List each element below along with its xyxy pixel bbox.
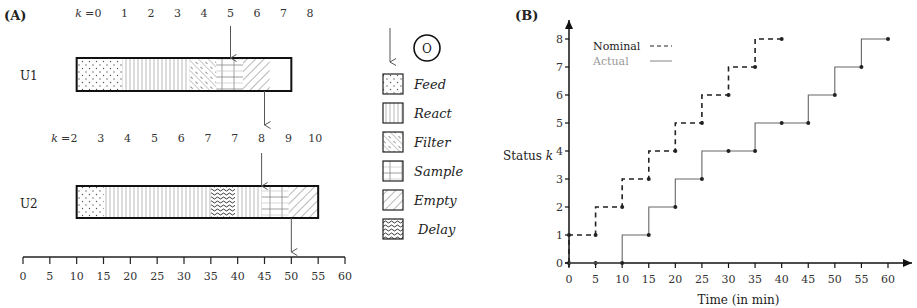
legend-item-feed: Feed [383, 74, 446, 94]
time-tick-label: 40 [231, 270, 245, 283]
time-tick-label: 20 [123, 270, 137, 283]
unit-name: U1 [20, 69, 38, 83]
data-point [727, 93, 731, 97]
x-tick-label: 40 [775, 273, 789, 286]
time-tick-label: 5 [46, 270, 53, 283]
legend-circle-label: O [422, 42, 432, 56]
segment-feed [77, 58, 123, 91]
legend-swatch [383, 190, 403, 210]
x-tick-label: 20 [668, 273, 682, 286]
x-tick-label: 55 [854, 273, 868, 286]
time-tick-label: 45 [258, 270, 272, 283]
x-tick-label: 25 [695, 273, 709, 286]
segment-react [235, 186, 262, 218]
y-tick-label: 0 [556, 257, 563, 270]
data-point [753, 149, 757, 153]
data-point [753, 65, 757, 69]
legend-swatch [383, 74, 403, 94]
time-tick-label: 25 [150, 270, 164, 283]
data-point [700, 121, 704, 125]
time-tick-label: 10 [70, 270, 84, 283]
k-label: 3 [174, 7, 181, 20]
data-point [620, 205, 624, 209]
unit-u2: k=23456778910U2 [20, 132, 322, 252]
k-label: 6 [254, 7, 261, 20]
x-tick-label: 0 [566, 273, 573, 286]
x-axis-label: Time (in min) [698, 293, 780, 307]
legend-label-nominal: Nominal [593, 40, 641, 53]
time-tick-label: 0 [20, 270, 27, 283]
k-label: 5 [227, 7, 234, 20]
k-label: 0 [95, 7, 102, 20]
panel-a-label: (A) [4, 8, 26, 23]
data-point [673, 149, 677, 153]
legend-item-delay: Delay [383, 219, 456, 239]
unit-u1: k=012345678U1 [20, 7, 314, 125]
k-label: 7 [280, 7, 287, 20]
legend-label: React [413, 106, 453, 121]
x-tick-label: 50 [828, 273, 842, 286]
segment-idle [270, 58, 291, 91]
k-label: 7 [231, 132, 238, 145]
data-point [859, 65, 863, 69]
panel-b-label: (B) [515, 8, 538, 23]
legend-item-filter: Filter [383, 132, 451, 152]
data-point [780, 37, 784, 41]
k-label: 5 [151, 132, 158, 145]
legend-item-empty: Empty [383, 190, 457, 210]
panel-a: k=012345678U1k=23456778910U2051015202530… [20, 7, 353, 283]
data-point [594, 233, 598, 237]
segment-react [122, 58, 189, 91]
k-prefix: k [75, 7, 82, 20]
x-tick-label: 30 [722, 273, 736, 286]
chart-legend: NominalActual [592, 40, 672, 68]
time-tick-label: 30 [177, 270, 191, 283]
k-label: 9 [285, 132, 292, 145]
legend-swatch [383, 103, 403, 123]
k-label: 4 [124, 132, 131, 145]
k-prefix-eq: = [85, 7, 94, 20]
k-label: 3 [97, 132, 104, 145]
phase-legend: OFeedReactFilterSampleEmptyDelay [383, 28, 463, 239]
legend-swatch [383, 161, 403, 181]
series-actual [569, 37, 890, 265]
data-point [647, 233, 651, 237]
time-tick-label: 15 [97, 270, 111, 283]
segment-filter [189, 58, 216, 91]
data-point [886, 37, 890, 41]
legend-label: Delay [417, 222, 456, 237]
y-tick-label: 2 [556, 201, 563, 214]
data-point [700, 177, 704, 181]
segment-sample [216, 58, 243, 91]
k-label: 6 [178, 132, 185, 145]
status-chart: 051015202530354045505560012345678Time (i… [503, 20, 912, 307]
segment-react [104, 186, 211, 218]
time-tick-label: 35 [204, 270, 218, 283]
data-point [780, 121, 784, 125]
y-tick-label: 7 [556, 61, 563, 74]
time-axis: 051015202530354045505560 [20, 257, 353, 283]
k-prefix: k [51, 132, 58, 145]
x-tick-label: 10 [615, 273, 629, 286]
legend-label: Empty [413, 193, 457, 208]
time-tick-label: 50 [284, 270, 298, 283]
k-label: 4 [201, 7, 208, 20]
y-tick-label: 8 [556, 33, 563, 46]
time-tick-label: 55 [311, 270, 325, 283]
data-point [647, 177, 651, 181]
y-axis-label: Status k [503, 149, 553, 163]
segment-feed [77, 186, 104, 218]
legend-item-sample: Sample [383, 161, 463, 181]
k-label: 2 [148, 7, 155, 20]
legend-item-react: React [383, 103, 453, 123]
legend-label-actual: Actual [592, 55, 629, 68]
legend-swatch [383, 219, 403, 239]
k-label: 8 [258, 132, 265, 145]
y-tick-label: 6 [556, 89, 563, 102]
y-tick-label: 3 [556, 173, 563, 186]
segment-empty [243, 58, 270, 91]
segment-delay [211, 186, 235, 218]
x-tick-label: 60 [881, 273, 895, 286]
data-point [833, 93, 837, 97]
x-tick-label: 15 [642, 273, 656, 286]
